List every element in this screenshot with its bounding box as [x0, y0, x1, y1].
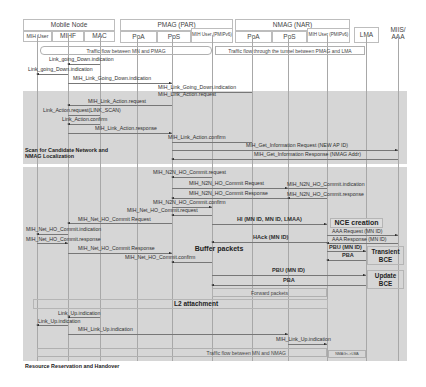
arrowhead-11 — [395, 149, 398, 151]
msg-n2n-commit-request-1: MIH_N2N_HO_Commit.request — [153, 170, 226, 175]
arrowhead-36 — [324, 343, 327, 345]
msg-link-up-2: Link_Up.indication — [38, 319, 80, 324]
msg-n2n-commit-response-2: MIH_N2N_HO_Commit.response — [287, 192, 364, 197]
msg-net-commit-request-1: MIH_Net_HO_Commit.request — [127, 208, 198, 213]
arrowhead-19 — [171, 214, 174, 216]
msg-net-commit-indication: MIH_Net_HO_Commit.indication — [26, 227, 101, 232]
arrowhead-6 — [67, 104, 70, 106]
action-nce-creation: NCE creation — [330, 218, 383, 228]
msg-mih-link-going-down-1: MIH_Link_Going_Down.indication — [73, 76, 151, 81]
arrow-13 — [172, 177, 212, 178]
arrowhead-22 — [36, 233, 39, 235]
arrow-10 — [172, 142, 252, 143]
arrow-14 — [172, 188, 288, 189]
msg-mih-link-up-2: MIH_Link_Up.indication — [276, 337, 331, 342]
arrow-29 — [327, 260, 366, 261]
lifeline-miis-aaa — [398, 35, 399, 361]
arrow-17 — [288, 198, 327, 199]
arrow-6 — [68, 105, 172, 106]
arrow-9 — [68, 133, 172, 134]
lifeline-lma — [366, 35, 367, 361]
msg-net-commit-confirm: MIH_Net_HO_Commit.confirm — [125, 255, 195, 260]
arrow-12 — [172, 159, 398, 160]
msg-aaa-response: AAA Response (MN ID) — [332, 237, 387, 242]
entity-nar-mih-user-pmipv6: MIH User (PMIPv6) — [307, 28, 350, 43]
msg-link-action-request-scan: Link_Action.request(LINK_SCAN) — [43, 108, 121, 113]
msg-mih-link-action-confirm: MIH_Link_Action.confirm — [168, 135, 226, 140]
msg-n2n-commit-request-2: MIH_N2N_HO_Commit Request — [189, 181, 264, 186]
msg-link-action-confirm: Link_Action.confirm — [62, 117, 107, 122]
entity-par-poa: PoA — [120, 31, 157, 43]
msg-aaa-request: AAA Request (MN ID) — [332, 229, 382, 234]
arrowhead-32 — [211, 284, 214, 286]
arrowhead-26 — [65, 242, 68, 244]
msg-link-going-down-1: Link_going_Down.indication — [49, 57, 114, 62]
flow-nmag-lma: NMAG<->LMA — [328, 350, 366, 358]
arrowhead-17 — [287, 197, 290, 199]
msg-n2n-commit-response-1: MIH_N2N_HO_Commit Response — [189, 191, 268, 196]
msg-hack: HAck (MN ID) — [253, 235, 288, 241]
msg-mih-get-info-response: MIH_Get_Information Response (NMAG Addr) — [254, 152, 361, 157]
arrowhead-34 — [36, 324, 39, 326]
arrow-31 — [212, 275, 366, 276]
arrowhead-30 — [171, 261, 174, 263]
arrow-22 — [37, 234, 68, 235]
action-transient-bce: Transient BCE — [367, 246, 404, 265]
msg-net-commit-response-2: MIH_Net_HO_Commit Response — [78, 246, 155, 251]
msg-link-up-1: Link_Up.indication — [58, 311, 100, 316]
arrowhead-13 — [171, 176, 174, 178]
action-update-bce: Update BCE — [367, 270, 404, 289]
arrowhead-23 — [395, 234, 398, 236]
arrow-20 — [68, 223, 172, 224]
arrowhead-1 — [67, 63, 70, 65]
msg-pba-2: PBA — [283, 278, 295, 284]
msg-mih-get-info-request: MIH_Get_Information Request (NEW AP ID) — [246, 143, 348, 148]
entity-nar-poa: PoA — [235, 31, 272, 43]
entity-nar-pos: PoS — [272, 31, 307, 43]
arrowhead-29 — [326, 259, 329, 261]
action-l2-attachment: L2 attachment — [33, 299, 328, 309]
flow-tunnel-label: Traffic flow through the tunnel between … — [228, 48, 351, 54]
arrowhead-35 — [285, 333, 288, 335]
msg-n2n-commit-confirm: MIH_N2N_HO_Commit.confirm — [153, 200, 226, 205]
msg-pbu-2: PBU (MN ID) — [272, 268, 305, 274]
arrowhead-21 — [324, 223, 327, 225]
msg-mih-link-action-response: MIH_Link_Action.response — [95, 126, 157, 131]
arrow-15 — [288, 188, 327, 189]
msg-net-commit-response-1: MIH_Net_HO_Commit.response — [26, 237, 101, 242]
msg-hi: HI (MN ID, MN ID, LMAA) — [237, 217, 302, 223]
phase-label-scan: Scan for Candidate Network and NMAG Loca… — [25, 147, 120, 160]
arrow-32 — [212, 285, 366, 286]
msg-link-going-down-2: Link_going_Down.indication — [28, 67, 93, 72]
msg-pbu-1: PBU (MN ID) — [329, 245, 362, 251]
arrowhead-24 — [211, 241, 214, 243]
arrowhead-28 — [363, 250, 366, 252]
flow-forward-label: Forward packets — [251, 290, 288, 296]
msg-net-commit-request-2: MIH_Net_HO_Commit Request — [78, 217, 151, 222]
arrow-2 — [37, 74, 68, 75]
arrow-24 — [212, 242, 327, 243]
action-buffer-packets: Buffer packets — [194, 244, 244, 254]
arrowhead-20 — [67, 222, 70, 224]
lifeline-nar-mih-user — [327, 35, 328, 361]
flow-mn-pmag-label: Traffic flow between MN and PMAG — [86, 48, 165, 54]
msg-mih-link-going-down-2: MIH_Link_Going_Down.indication — [158, 85, 236, 90]
flow-mn-pmag: Traffic flow between MN and PMAG — [40, 46, 212, 55]
arrow-21 — [212, 224, 327, 225]
flow-nmag-lma-label: NMAG<->LMA — [335, 352, 359, 356]
arrow-1 — [68, 64, 100, 65]
flow-tunnel-pmag-lma: Traffic flow through the tunnel between … — [215, 46, 365, 55]
flow-mn-nmag-label: Traffic flow between MN and NMAG — [207, 350, 286, 356]
arrow-3 — [68, 83, 172, 84]
lifeline-mn-mih-user — [37, 35, 38, 361]
arrowhead-8 — [67, 123, 70, 125]
arrowhead-2 — [36, 73, 39, 75]
msg-mih-link-up-1: MIH_Link_Up.indication — [78, 327, 133, 332]
arrow-19 — [172, 215, 212, 216]
arrow-34 — [37, 325, 68, 326]
arrowhead-12 — [171, 158, 174, 160]
arrow-26 — [37, 243, 68, 244]
arrow-30 — [172, 262, 212, 263]
msg-mih-link-action-req-2: MIH_Link_Action.request — [88, 99, 146, 104]
flow-forward-packets: Forward packets — [212, 288, 327, 297]
